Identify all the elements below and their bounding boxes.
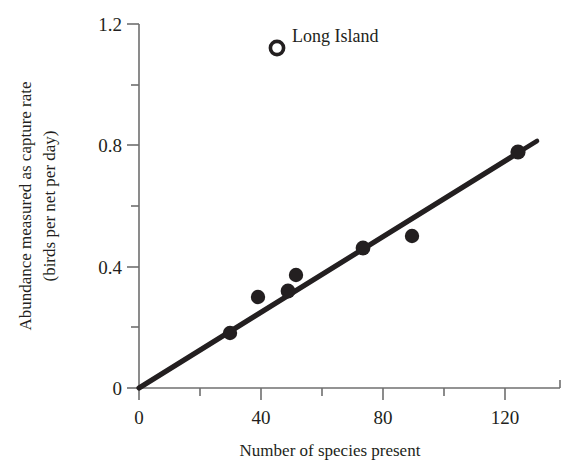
- data-point[interactable]: [223, 326, 237, 340]
- y-axis-title-line2: (birds per net per day): [40, 130, 59, 281]
- y-axis-title-line1: Abundance measured as capture rate: [16, 81, 35, 330]
- y-tick-label-0.8: 0.8: [98, 135, 122, 156]
- x-tick-label-40: 40: [252, 407, 271, 428]
- data-point[interactable]: [281, 284, 296, 299]
- data-point[interactable]: [510, 144, 525, 159]
- x-tick-label-80: 80: [374, 407, 393, 428]
- data-point-long-island[interactable]: [270, 41, 283, 54]
- regression-trendline: [139, 156, 513, 388]
- x-tick-label-0: 0: [134, 407, 144, 428]
- data-point-label-long-island: Long Island: [292, 26, 378, 46]
- data-point[interactable]: [356, 241, 371, 256]
- y-axis-minor-ticks: [131, 85, 139, 327]
- y-tick-label-0: 0: [113, 378, 123, 399]
- scatter-plot: 1.2 0.8 0.4 0 0 40 80 120 Number of spec…: [0, 0, 580, 476]
- y-tick-label-0.4: 0.4: [98, 257, 122, 278]
- data-point[interactable]: [289, 268, 303, 282]
- axis-lines: [139, 24, 560, 388]
- regression-trendline-extension: [524, 141, 537, 149]
- data-point[interactable]: [405, 229, 419, 243]
- data-point[interactable]: [251, 290, 265, 304]
- figure-container: 1.2 0.8 0.4 0 0 40 80 120 Number of spec…: [0, 0, 580, 476]
- y-tick-label-1.2: 1.2: [98, 14, 122, 35]
- x-tick-label-120: 120: [491, 407, 520, 428]
- x-axis-title: Number of species present: [240, 441, 421, 460]
